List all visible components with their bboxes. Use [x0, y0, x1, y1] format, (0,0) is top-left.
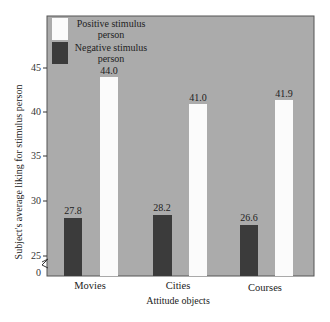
x-axis-title: Attitude objects	[146, 295, 210, 306]
legend-label-negative: person	[98, 53, 125, 64]
value-label: 28.2	[153, 202, 171, 213]
x-tick-label-cities: Cities	[166, 280, 191, 291]
y-tick-label: 30	[31, 195, 41, 206]
value-label: 26.6	[240, 212, 258, 223]
y-tick-label: 45	[31, 62, 41, 73]
y-tick-label: 25	[31, 250, 41, 261]
legend-swatch-positive	[52, 18, 68, 40]
value-label: 27.8	[64, 205, 82, 216]
x-tick-label-courses: Courses	[248, 282, 282, 293]
x-tick-label-movies: Movies	[74, 280, 106, 291]
legend-label-positive: Positive stimulus	[77, 18, 146, 29]
bar-chart: 45 40 35 30 25 0 Subject's average likin…	[0, 0, 330, 322]
legend-swatch-negative	[52, 42, 68, 64]
value-label: 44.0	[100, 65, 118, 76]
y-tick-label: 35	[31, 150, 41, 161]
bar-negative-movies	[64, 218, 82, 276]
legend-label-positive: person	[98, 29, 125, 40]
y-tick-label: 0	[36, 267, 41, 278]
y-axis-title: Subject's average liking for stimulus pe…	[13, 85, 24, 260]
bar-positive-courses	[275, 100, 293, 276]
value-label: 41.0	[189, 92, 207, 103]
bar-positive-movies	[100, 77, 118, 276]
y-tick-label: 40	[31, 106, 41, 117]
bar-negative-cities	[153, 215, 172, 276]
y-axis: 45 40 35 30 25 0	[31, 62, 48, 278]
plot-area	[47, 16, 314, 276]
legend-label-negative: Negative stimulus	[75, 42, 148, 53]
bar-negative-courses	[240, 225, 258, 276]
bar-positive-cities	[189, 104, 207, 276]
value-label: 41.9	[275, 88, 293, 99]
